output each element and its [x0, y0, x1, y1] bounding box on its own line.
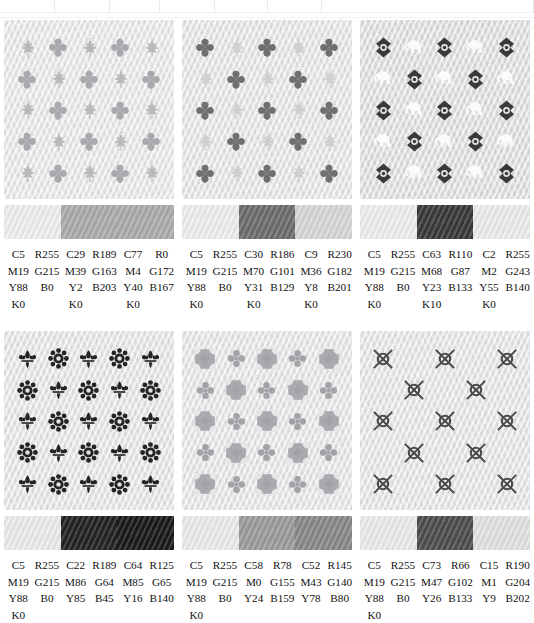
clover-icon	[140, 130, 162, 153]
maple-leaf-icon	[319, 131, 339, 153]
motif-cell	[135, 158, 166, 189]
rosette-diamond-icon	[373, 37, 394, 58]
fleur-de-lis-icon	[141, 349, 160, 369]
color-value: C5	[360, 246, 389, 263]
color-value: M19	[182, 574, 211, 591]
color-value: C58	[239, 557, 268, 574]
color-value: B0	[389, 590, 418, 607]
clover-icon	[109, 99, 131, 122]
motif-cell	[12, 469, 43, 500]
motif-cell	[43, 95, 74, 126]
motif-cell	[135, 469, 166, 500]
motif-cell	[430, 95, 461, 126]
color-value: G243	[503, 263, 532, 280]
motif-cell	[43, 158, 74, 189]
color-value: G204	[503, 574, 532, 591]
motif-cell	[282, 32, 313, 63]
motif-cell	[74, 406, 105, 437]
maple-leaf-icon	[141, 37, 161, 59]
color-value: G215	[211, 574, 240, 591]
color-value: Y2	[61, 279, 90, 296]
motif-cell	[43, 437, 74, 468]
quatrefoil-cross-icon	[319, 381, 338, 400]
motif-cell	[313, 343, 344, 374]
color-value: K0	[239, 296, 268, 313]
fleur-de-lis-icon	[79, 474, 98, 494]
color-swatch-segment	[417, 516, 474, 550]
floral-rosette-icon	[17, 380, 38, 401]
clover-icon	[194, 99, 216, 122]
color-value: C77	[119, 246, 148, 263]
motif-cell	[221, 469, 252, 500]
color-value: C2	[475, 246, 504, 263]
motif-cell	[221, 406, 252, 437]
clover-icon	[194, 36, 216, 59]
quatrefoil-cross-icon	[196, 443, 215, 462]
quatrefoil-cross-icon	[257, 443, 276, 462]
motif-cell	[491, 406, 522, 437]
motif-cell	[221, 437, 252, 468]
motif-cell	[190, 437, 221, 468]
color-value: K0	[182, 607, 211, 623]
maple-leaf-icon	[79, 37, 99, 59]
color-swatch-segment	[4, 516, 61, 550]
color-value: R189	[90, 246, 119, 263]
color-value: R230	[325, 246, 354, 263]
motif-cell	[74, 343, 105, 374]
color-values-table: C5R255C58R78C52R145M19G215M0G155M43G140Y…	[182, 557, 354, 623]
color-value	[268, 607, 297, 623]
color-value	[90, 296, 119, 313]
rosette-diamond-icon	[434, 37, 455, 58]
color-value: G215	[211, 263, 240, 280]
swatch-block: C5R255C30R186C9R230M19G215M70G101M36G182…	[178, 20, 356, 312]
fleur-de-lis-icon	[49, 380, 68, 400]
color-value	[389, 296, 418, 313]
color-swatch-bar	[360, 205, 530, 239]
table-bottom-rule	[0, 17, 534, 18]
motif-cell	[43, 406, 74, 437]
motif-cell	[135, 343, 166, 374]
elephant-icon	[465, 38, 486, 58]
maple-leaf-icon	[48, 131, 68, 153]
motif-cell	[313, 63, 344, 94]
swatch-block: C5R255C63R110C2R255M19G215M68G87M2G243Y8…	[356, 20, 534, 312]
table-cell	[55, 0, 110, 13]
color-swatch-segment	[61, 205, 118, 239]
motif-cell	[43, 469, 74, 500]
motif-cell	[399, 343, 430, 374]
motif-cell	[282, 469, 313, 500]
pattern-swatch-image	[360, 331, 530, 510]
color-value: C63	[417, 246, 446, 263]
motif-cell	[430, 63, 461, 94]
motif-cell	[74, 126, 105, 157]
clover-icon	[47, 36, 69, 59]
color-value: B45	[90, 590, 119, 607]
rosette-diamond-icon	[496, 100, 517, 121]
color-value: C29	[61, 246, 90, 263]
elephant-icon	[434, 69, 455, 89]
rosette-diamond-icon	[496, 37, 517, 58]
color-value: B133	[446, 590, 475, 607]
color-value: Y88	[4, 590, 33, 607]
motif-cell	[430, 32, 461, 63]
motif-cell	[252, 406, 283, 437]
quatrefoil-cross-icon	[227, 349, 246, 368]
motif-cell	[368, 95, 399, 126]
clover-icon	[225, 130, 247, 153]
clover-icon	[140, 68, 162, 91]
color-value: M70	[239, 263, 268, 280]
color-value: B0	[211, 279, 240, 296]
motif-cell	[252, 374, 283, 405]
maple-leaf-icon	[79, 99, 99, 121]
motif-cell	[135, 126, 166, 157]
color-value: C5	[360, 557, 389, 574]
color-value: M85	[119, 574, 148, 591]
damask-square-icon	[318, 348, 340, 370]
fleur-de-lis-icon	[18, 411, 37, 431]
motif-cell	[135, 95, 166, 126]
color-value: K0	[119, 296, 148, 313]
pattern-swatch-image	[4, 331, 174, 510]
color-value: G102	[446, 574, 475, 591]
motif-cell	[190, 63, 221, 94]
motif-cell	[43, 343, 74, 374]
